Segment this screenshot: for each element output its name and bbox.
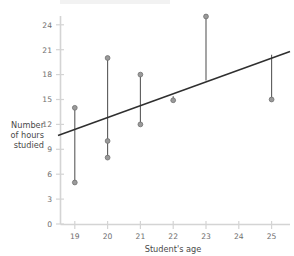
- data-point: [269, 97, 274, 102]
- x-tick-label-20: 20: [103, 232, 113, 241]
- x-tick-label-24: 24: [234, 232, 244, 241]
- data-point: [138, 122, 143, 127]
- y-tick-label-9: 9: [47, 145, 52, 154]
- y-axis-title-line-3: studied: [14, 140, 44, 150]
- y-tick-label-24: 24: [42, 21, 52, 30]
- y-tick-label-15: 15: [42, 95, 52, 104]
- x-tick-label-21: 21: [136, 232, 146, 241]
- x-axis-title: Student's age: [145, 244, 202, 254]
- y-axis-title-line-1: Number: [11, 120, 45, 130]
- data-point: [171, 98, 176, 103]
- y-axis-title: Number of hours studied: [10, 120, 44, 150]
- x-tick-label-19: 19: [70, 232, 80, 241]
- data-point: [72, 180, 77, 185]
- data-point: [72, 105, 77, 110]
- data-point: [105, 155, 110, 160]
- x-tick-label-22: 22: [168, 232, 178, 241]
- y-tick-label-6: 6: [47, 170, 52, 179]
- x-tick-label-25: 25: [267, 232, 277, 241]
- y-tick-label-21: 21: [42, 46, 52, 55]
- chart-canvas: 24 21 18 15 12 9 6 3 0 19 20 21 22 23 24…: [0, 0, 294, 256]
- y-tick-label-18: 18: [42, 70, 52, 79]
- y-tick-label-0: 0: [47, 220, 52, 229]
- data-point: [204, 14, 209, 19]
- data-point: [105, 56, 110, 61]
- y-axis-title-line-2: of hours: [10, 130, 44, 140]
- chart-title-clipped: [60, 0, 170, 4]
- data-point: [105, 139, 110, 144]
- y-tick-label-3: 3: [47, 195, 52, 204]
- data-point: [138, 72, 143, 77]
- x-tick-label-23: 23: [201, 232, 211, 241]
- scatter-plot-figure: 24 21 18 15 12 9 6 3 0 19 20 21 22 23 24…: [0, 0, 294, 256]
